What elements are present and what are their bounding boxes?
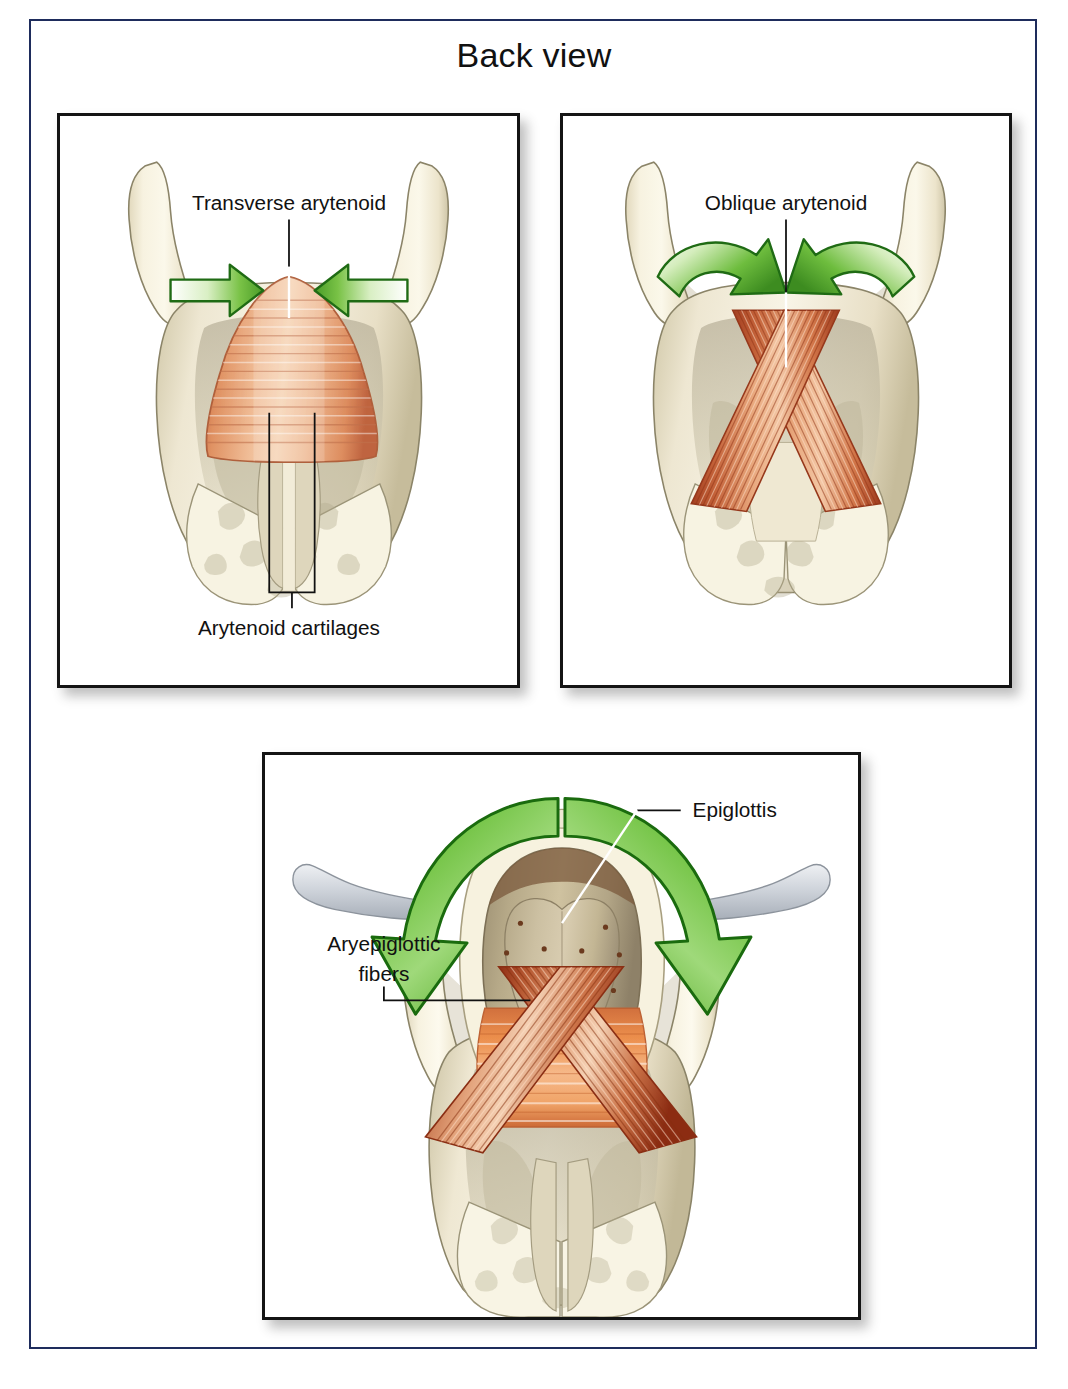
label-oblique-arytenoid: Oblique arytenoid xyxy=(705,191,867,214)
aryepiglottic-illustration: Epiglottis Aryepiglottic fibers xyxy=(265,755,858,1317)
transverse-arytenoid-illustration: Transverse arytenoid Arytenoid cartilage… xyxy=(60,116,517,685)
label-transverse-arytenoid: Transverse arytenoid xyxy=(192,191,386,214)
oblique-arytenoid-illustration: Oblique arytenoid xyxy=(563,116,1009,685)
left-superior-horn xyxy=(626,162,691,326)
panel-transverse-arytenoid: Transverse arytenoid Arytenoid cartilage… xyxy=(57,113,520,688)
label-epiglottis: Epiglottis xyxy=(693,798,777,821)
label-aryepiglottic-line2: fibers xyxy=(359,962,410,985)
panel-aryepiglottic-fibers: Epiglottis Aryepiglottic fibers xyxy=(262,752,861,1320)
interarytenoid-midline xyxy=(283,448,295,590)
label-aryepiglottic-line1: Aryepiglottic xyxy=(327,932,440,955)
label-arytenoid-cartilages: Arytenoid cartilages xyxy=(198,616,380,639)
page-title: Back view xyxy=(0,36,1068,75)
panel-oblique-arytenoid: Oblique arytenoid xyxy=(560,113,1012,688)
anatomy-figure: Back view xyxy=(0,0,1068,1389)
